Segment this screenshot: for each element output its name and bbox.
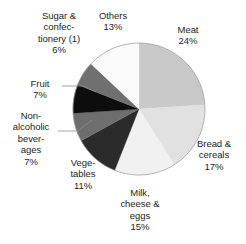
pie-label-non-alcoholic-beverages: Non- alcoholic bever- ages 7% xyxy=(4,110,58,167)
pie-label-bread-cereals: Bread & cereals 17% xyxy=(183,138,245,172)
pie-label-vegetables: Vege- tables 11% xyxy=(58,157,108,191)
pie-slice-meat xyxy=(139,43,205,109)
pie-chart: Meat 24% Bread & cereals 17% Milk, chees… xyxy=(0,0,246,244)
pie-label-others: Others 13% xyxy=(88,10,138,33)
pie-label-meat: Meat 24% xyxy=(160,24,216,47)
pie-label-milk-cheese-eggs: Milk, cheese & eggs 15% xyxy=(104,187,176,233)
pie-label-sugar-confectionery: Sugar & confec- tionery (1) 6% xyxy=(28,10,90,56)
pie-label-fruit: Fruit 7% xyxy=(18,78,62,101)
